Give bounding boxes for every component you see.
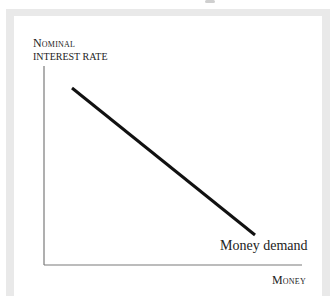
money-demand-label: Money demand bbox=[220, 238, 307, 254]
money-demand-curve bbox=[72, 88, 255, 235]
x-axis-label: Money bbox=[272, 274, 306, 286]
y-axis-label-line2: INTEREST RATE bbox=[33, 51, 108, 63]
y-axis-label-line1: Nominal bbox=[33, 37, 75, 49]
